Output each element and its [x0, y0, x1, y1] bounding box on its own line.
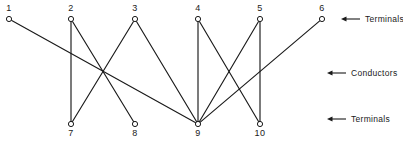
terminal-node-1	[6, 16, 11, 21]
terminal-label-8: 8	[132, 129, 137, 138]
terminal-label-1: 1	[6, 4, 11, 13]
callout-arrow-head-2	[327, 116, 333, 121]
terminal-node-9	[195, 121, 200, 126]
terminal-node-6	[319, 16, 324, 21]
terminal-label-6: 6	[319, 4, 324, 13]
terminal-label-9: 9	[195, 129, 200, 138]
terminal-node-5	[257, 16, 262, 21]
callout-arrow-head-0	[341, 16, 347, 21]
wiring-diagram-figure: 12345678910 TerminalsConductorsTerminals	[0, 0, 403, 151]
terminal-node-7	[68, 121, 73, 126]
diagram-canvas	[0, 0, 403, 151]
terminal-label-3: 3	[132, 4, 137, 13]
terminal-node-4	[195, 16, 200, 21]
terminal-label-2: 2	[68, 4, 73, 13]
terminal-node-3	[132, 16, 137, 21]
callout-label-0: Terminals	[365, 15, 403, 24]
callout-label-2: Terminals	[351, 115, 390, 124]
terminal-node-2	[68, 16, 73, 21]
conductor-lines-group	[11, 20, 320, 122]
terminal-nodes-group	[6, 16, 324, 126]
callout-label-1: Conductors	[351, 69, 397, 78]
callout-arrow-head-1	[327, 70, 333, 75]
terminal-label-4: 4	[195, 4, 200, 13]
terminal-label-7: 7	[68, 129, 73, 138]
terminal-label-10: 10	[255, 129, 266, 138]
terminal-node-8	[132, 121, 137, 126]
terminal-label-5: 5	[257, 4, 262, 13]
terminal-node-10	[257, 121, 262, 126]
